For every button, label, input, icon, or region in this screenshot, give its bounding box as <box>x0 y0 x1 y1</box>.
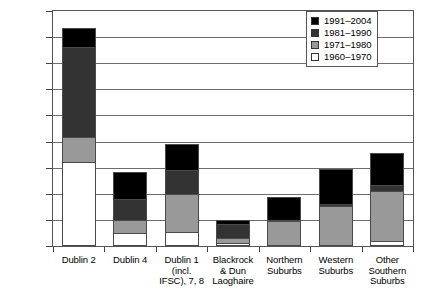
bar-segment[interactable] <box>370 191 404 241</box>
legend-label: 1960–1970 <box>324 52 372 62</box>
x-tick-mark <box>207 247 208 252</box>
bar-segment[interactable] <box>62 28 96 47</box>
y-tick-mark <box>46 194 52 195</box>
y-tick-mark <box>46 89 52 90</box>
bar-stack[interactable] <box>267 197 301 246</box>
chart-legend: 1991–20041981–19901971–19801960–1970 <box>306 11 378 67</box>
bar-segment[interactable] <box>113 199 147 220</box>
bar-segment[interactable] <box>113 233 147 246</box>
bar-segment[interactable] <box>165 170 199 195</box>
y-tick-mark <box>46 246 52 247</box>
bar-segment[interactable] <box>62 47 96 137</box>
bar-segment[interactable] <box>62 137 96 162</box>
bar-segment[interactable] <box>113 172 147 199</box>
legend-swatch-icon <box>311 53 319 61</box>
x-tick-mark <box>104 247 105 252</box>
y-tick-mark <box>46 220 52 221</box>
bar-stack[interactable] <box>113 172 147 246</box>
bar-segment[interactable] <box>165 232 199 246</box>
bar-slot <box>259 11 310 246</box>
bar-segment[interactable] <box>267 221 301 246</box>
legend-swatch-icon <box>311 29 319 37</box>
legend-item[interactable]: 1991–2004 <box>311 15 372 27</box>
bar-segment[interactable] <box>62 162 96 246</box>
legend-swatch-icon <box>311 17 319 25</box>
legend-item[interactable]: 1971–1980 <box>311 39 372 51</box>
bar-segment[interactable] <box>319 169 353 204</box>
bar-stack[interactable] <box>165 144 199 246</box>
bar-slot <box>53 11 104 246</box>
y-tick-mark <box>46 11 52 12</box>
y-tick-mark <box>46 63 52 64</box>
x-tick-mark <box>362 247 363 252</box>
bar-segment[interactable] <box>370 241 404 246</box>
x-tick-mark <box>156 247 157 252</box>
bar-slot <box>207 11 258 246</box>
bar-stack[interactable] <box>319 169 353 246</box>
x-tick-mark <box>310 247 311 252</box>
bar-segment[interactable] <box>267 197 301 220</box>
bar-slot <box>156 11 207 246</box>
bar-stack[interactable] <box>216 220 250 246</box>
bar-segment[interactable] <box>216 243 250 246</box>
bar-stack[interactable] <box>62 28 96 246</box>
y-tick-mark <box>46 37 52 38</box>
bar-segment[interactable] <box>113 220 147 233</box>
legend-label: 1981–1990 <box>324 28 372 38</box>
legend-label: 1971–1980 <box>324 40 372 50</box>
legend-item[interactable]: 1981–1990 <box>311 27 372 39</box>
x-tick-mark <box>53 247 54 252</box>
y-tick-mark <box>46 142 52 143</box>
legend-swatch-icon <box>311 41 319 49</box>
bar-stack[interactable] <box>370 153 404 246</box>
bar-segment[interactable] <box>370 153 404 186</box>
bar-segment[interactable] <box>216 224 250 237</box>
legend-item[interactable]: 1960–1970 <box>311 51 372 63</box>
x-tick-mark <box>413 247 414 252</box>
x-tick-mark <box>259 247 260 252</box>
x-category-label: Other Southern Suburbs <box>356 255 419 287</box>
y-tick-mark <box>46 115 52 116</box>
bar-segment[interactable] <box>319 206 353 246</box>
bar-segment[interactable] <box>165 194 199 232</box>
bar-slot <box>104 11 155 246</box>
stacked-bar-chart: 1800000160000014000001200000100000080000… <box>0 0 421 303</box>
y-tick-mark <box>46 168 52 169</box>
legend-label: 1991–2004 <box>324 16 372 26</box>
bar-segment[interactable] <box>165 144 199 169</box>
